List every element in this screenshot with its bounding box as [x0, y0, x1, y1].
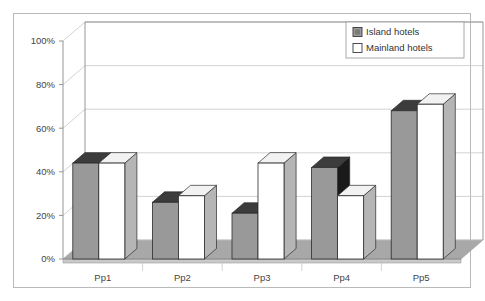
- legend-label: Mainland hotels: [366, 42, 433, 53]
- bar-front-face: [178, 196, 204, 259]
- bar-front-face: [258, 163, 284, 259]
- bar-pp1-mainland: [99, 153, 137, 259]
- bar-pp4-mainland: [338, 185, 376, 259]
- y-axis-tick-label: 20%: [36, 210, 56, 221]
- chart-container: 0%20%40%60%80%100% Pp1Pp2Pp3Pp4Pp5 Islan…: [0, 0, 485, 301]
- y-axis-tick-label: 40%: [36, 166, 56, 177]
- bar-front-face: [391, 111, 417, 259]
- bar-front-face: [417, 104, 443, 259]
- x-axis-category-label: Pp3: [254, 272, 271, 283]
- x-axis-category-label: Pp1: [94, 272, 111, 283]
- bar-front-face: [73, 163, 99, 259]
- bar-series-group: [73, 94, 456, 259]
- gridline-depth-connector: [63, 66, 85, 85]
- y-axis-tick-labels: 0%20%40%60%80%100%: [31, 35, 63, 264]
- bar-pp5-mainland: [417, 94, 455, 259]
- legend-label: Island hotels: [366, 26, 420, 37]
- x-axis-category-label: Pp2: [174, 272, 191, 283]
- bar-chart-3d: 0%20%40%60%80%100% Pp1Pp2Pp3Pp4Pp5 Islan…: [0, 0, 485, 301]
- bar-front-face: [312, 167, 338, 259]
- gridline-depth-connector: [63, 109, 85, 128]
- bar-pp2-mainland: [178, 185, 216, 259]
- chart-legend: Island hotelsMainland hotels: [346, 22, 464, 58]
- x-axis-category-labels: Pp1Pp2Pp3Pp4Pp5: [94, 263, 429, 283]
- bar-side-face: [364, 185, 376, 259]
- x-axis-category-label: Pp4: [333, 272, 350, 283]
- bar-front-face: [152, 202, 178, 259]
- bar-side-face: [204, 185, 216, 259]
- legend-swatch-inner: [355, 30, 360, 35]
- gridline-depth-connector: [63, 22, 85, 41]
- bar-front-face: [338, 196, 364, 259]
- bar-front-face: [232, 213, 258, 259]
- bar-front-face: [99, 163, 125, 259]
- y-axis-tick-label: 60%: [36, 123, 56, 134]
- y-axis-tick-label: 100%: [31, 35, 56, 46]
- bar-pp3-mainland: [258, 153, 296, 259]
- legend-swatch: [353, 44, 362, 53]
- bar-side-face: [125, 153, 137, 259]
- y-axis-tick-label: 80%: [36, 79, 56, 90]
- bar-side-face: [284, 153, 296, 259]
- x-axis-category-label: Pp5: [413, 272, 430, 283]
- y-axis-tick-label: 0%: [41, 253, 55, 264]
- bar-side-face: [443, 94, 455, 259]
